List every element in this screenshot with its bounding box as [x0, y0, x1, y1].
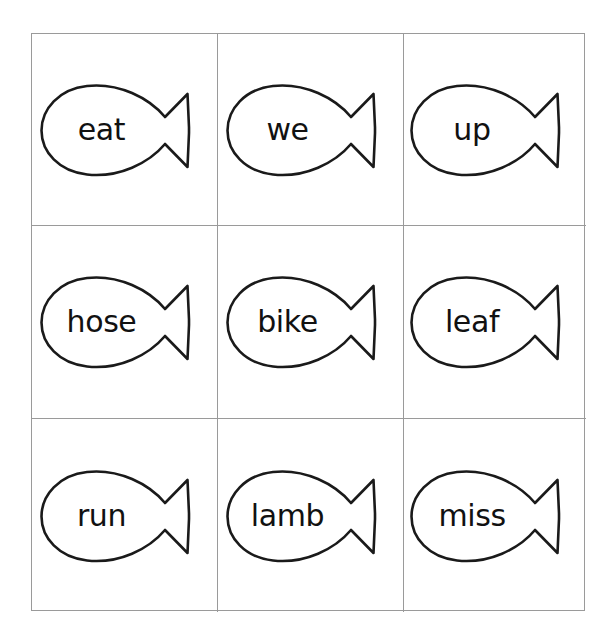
fish-graphic: bike [223, 267, 399, 377]
fish-graphic: miss [407, 461, 583, 571]
card-word: we [223, 75, 345, 185]
word-card-cell[interactable]: hose [32, 226, 218, 419]
word-card-cell[interactable]: miss [404, 419, 586, 612]
card-inner: run [32, 419, 217, 612]
card-word: eat [37, 75, 159, 185]
card-word: hose [37, 267, 159, 377]
card-word: lamb [223, 461, 345, 571]
card-word: run [37, 461, 159, 571]
fish-graphic: run [37, 461, 213, 571]
word-card-cell[interactable]: up [404, 34, 586, 226]
card-word: bike [223, 267, 345, 377]
card-word: leaf [407, 267, 529, 377]
card-inner: eat [32, 34, 217, 225]
word-card-cell[interactable]: lamb [218, 419, 404, 612]
word-card-cell[interactable]: we [218, 34, 404, 226]
card-inner: we [218, 34, 403, 225]
word-card-grid: eat we up [31, 33, 585, 611]
word-card-cell[interactable]: leaf [404, 226, 586, 419]
card-inner: miss [404, 419, 586, 612]
card-inner: lamb [218, 419, 403, 612]
word-card-cell[interactable]: run [32, 419, 218, 612]
card-inner: hose [32, 226, 217, 418]
fish-graphic: eat [37, 75, 213, 185]
word-card-cell[interactable]: bike [218, 226, 404, 419]
card-inner: up [404, 34, 586, 225]
fish-graphic: hose [37, 267, 213, 377]
fish-graphic: lamb [223, 461, 399, 571]
fish-graphic: up [407, 75, 583, 185]
card-inner: leaf [404, 226, 586, 418]
fish-graphic: we [223, 75, 399, 185]
card-word: miss [407, 461, 529, 571]
word-card-cell[interactable]: eat [32, 34, 218, 226]
card-inner: bike [218, 226, 403, 418]
card-word: up [407, 75, 529, 185]
fish-graphic: leaf [407, 267, 583, 377]
